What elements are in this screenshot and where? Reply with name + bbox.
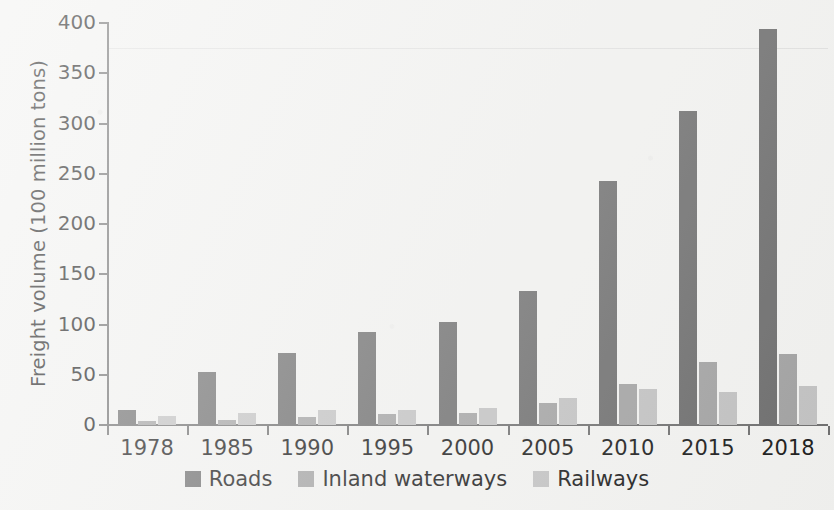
bar bbox=[118, 410, 136, 425]
bar bbox=[278, 353, 296, 425]
bar bbox=[238, 413, 256, 425]
bar bbox=[519, 291, 537, 425]
bar-group bbox=[679, 23, 737, 425]
x-axis-tick-label: 2000 bbox=[427, 436, 507, 460]
x-axis-tick-label: 1985 bbox=[187, 436, 267, 460]
y-axis-tick-label: 50 bbox=[22, 362, 96, 386]
bar bbox=[619, 384, 637, 425]
y-axis-tick-label: 200 bbox=[22, 211, 96, 235]
bar bbox=[318, 410, 336, 425]
y-axis-tick-label: 300 bbox=[22, 111, 96, 135]
bar bbox=[699, 362, 717, 425]
legend-label: Railways bbox=[557, 467, 649, 491]
bar bbox=[479, 408, 497, 425]
bar-group bbox=[759, 23, 817, 425]
bar bbox=[779, 354, 797, 425]
bar bbox=[719, 392, 737, 425]
bar bbox=[378, 414, 396, 425]
x-axis-tick bbox=[588, 426, 590, 435]
y-axis-tick-label: 400 bbox=[22, 10, 96, 34]
bar bbox=[218, 420, 236, 425]
bar-group bbox=[439, 23, 497, 425]
bar-group bbox=[358, 23, 416, 425]
bar bbox=[599, 181, 617, 425]
bar-group bbox=[198, 23, 256, 425]
bar-group bbox=[519, 23, 577, 425]
bar bbox=[358, 332, 376, 425]
bar bbox=[759, 29, 777, 425]
legend-label: Roads bbox=[209, 467, 273, 491]
bar bbox=[459, 413, 477, 425]
x-axis-tick bbox=[347, 426, 349, 435]
bar bbox=[639, 389, 657, 425]
bar bbox=[298, 417, 316, 425]
x-axis-tick bbox=[107, 426, 109, 435]
legend-swatch-icon bbox=[533, 471, 549, 487]
bar bbox=[198, 372, 216, 425]
chart-legend: RoadsInland waterwaysRailways bbox=[0, 467, 834, 491]
x-axis-tick bbox=[267, 426, 269, 435]
legend-item: Railways bbox=[533, 467, 649, 491]
x-axis-tick-label: 2018 bbox=[748, 436, 828, 460]
x-axis-tick bbox=[828, 426, 830, 435]
bar-chart: Freight volume (100 million tons) 400350… bbox=[0, 0, 834, 510]
x-axis-tick-label: 2005 bbox=[508, 436, 588, 460]
x-axis-tick bbox=[427, 426, 429, 435]
x-axis-tick-label: 1995 bbox=[347, 436, 427, 460]
x-axis-tick bbox=[748, 426, 750, 435]
y-axis-tick-label: 350 bbox=[22, 60, 96, 84]
legend-swatch-icon bbox=[298, 471, 314, 487]
legend-label: Inland waterways bbox=[322, 467, 507, 491]
bar bbox=[559, 398, 577, 425]
bar bbox=[439, 322, 457, 426]
bar-group bbox=[278, 23, 336, 425]
bar bbox=[398, 410, 416, 425]
x-axis-tick bbox=[668, 426, 670, 435]
x-axis-tick-label: 2015 bbox=[668, 436, 748, 460]
x-axis-tick-label: 1990 bbox=[267, 436, 347, 460]
legend-item: Inland waterways bbox=[298, 467, 507, 491]
y-axis-tick-label: 250 bbox=[22, 161, 96, 185]
plot-area bbox=[107, 23, 828, 425]
y-axis-tick-label: 100 bbox=[22, 312, 96, 336]
bar bbox=[539, 403, 557, 425]
bar bbox=[138, 421, 156, 425]
bar-group bbox=[599, 23, 657, 425]
bar-group bbox=[118, 23, 176, 425]
bar bbox=[799, 386, 817, 425]
bar bbox=[679, 111, 697, 425]
x-axis-tick bbox=[508, 426, 510, 435]
x-axis-tick-label: 2010 bbox=[588, 436, 668, 460]
y-axis-tick-label: 150 bbox=[22, 261, 96, 285]
x-axis-tick bbox=[187, 426, 189, 435]
y-axis-tick-label: 0 bbox=[22, 412, 96, 436]
legend-swatch-icon bbox=[185, 471, 201, 487]
x-axis-tick-label: 1978 bbox=[107, 436, 187, 460]
legend-item: Roads bbox=[185, 467, 273, 491]
bar bbox=[158, 416, 176, 425]
